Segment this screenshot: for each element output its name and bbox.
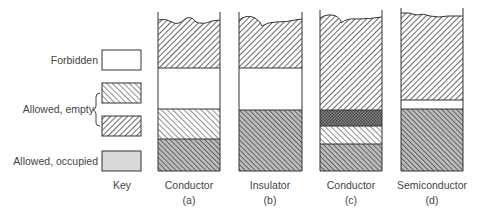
key-occupied-swatch bbox=[102, 151, 141, 171]
column-b-insulator bbox=[239, 12, 302, 171]
tag-a: (a) bbox=[149, 194, 229, 206]
key-forbidden-swatch bbox=[102, 50, 141, 70]
key-brace bbox=[93, 93, 100, 126]
key-label-forbidden: Forbidden bbox=[51, 54, 98, 66]
tag-b: (b) bbox=[230, 194, 310, 206]
key-empty-swatch-1 bbox=[102, 83, 141, 103]
caption-b: Insulator bbox=[230, 179, 310, 191]
tag-c: (c) bbox=[311, 194, 391, 206]
key-label-occupied: Allowed, occupied bbox=[13, 155, 98, 167]
tag-d: (d) bbox=[392, 194, 472, 206]
column-a-conductor bbox=[158, 12, 220, 171]
key-swatches bbox=[93, 50, 141, 171]
caption-c: Conductor bbox=[311, 179, 391, 191]
column-c-conductor bbox=[320, 10, 382, 171]
key-label-empty: Allowed, empty bbox=[23, 103, 94, 115]
column-d-semiconductor bbox=[401, 8, 463, 171]
caption-d: Semiconductor bbox=[392, 179, 472, 191]
key-empty-swatch-2 bbox=[102, 116, 141, 136]
caption-a: Conductor bbox=[149, 179, 229, 191]
